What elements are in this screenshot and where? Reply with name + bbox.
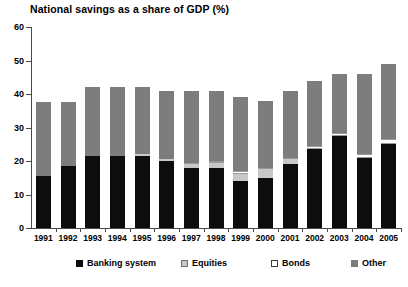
x-axis-tick-mark <box>130 228 131 232</box>
y-axis-tick-labels: 0102030405060 <box>0 0 24 287</box>
bar-segment-banking-system[interactable] <box>283 164 298 228</box>
y-axis-tick-mark <box>26 128 31 129</box>
legend-swatch-equities-icon <box>181 260 188 267</box>
legend-item-other[interactable]: Other <box>351 259 386 268</box>
y-axis-tick-mark <box>26 161 31 162</box>
x-axis-line <box>31 228 402 229</box>
plot-area <box>31 27 401 228</box>
legend-swatch-bonds-icon <box>271 260 278 267</box>
bar-segment-equities[interactable] <box>258 169 273 177</box>
x-axis-tick-mark <box>179 228 180 232</box>
x-axis-tick-mark <box>327 228 328 232</box>
bar-segment-banking-system[interactable] <box>135 156 150 228</box>
bar-segment-bonds[interactable] <box>332 133 347 136</box>
bar-segment-other[interactable] <box>332 74 347 133</box>
chart-legend: Banking systemEquitiesBondsOther <box>31 259 401 275</box>
bar-segment-other[interactable] <box>307 81 322 146</box>
bar-segment-equities[interactable] <box>209 163 224 168</box>
legend-label: Equities <box>192 259 227 268</box>
bar-segment-banking-system[interactable] <box>159 161 174 228</box>
bar-group[interactable] <box>36 27 51 228</box>
bar-segment-banking-system[interactable] <box>381 144 396 228</box>
y-axis-tick-label: 50 <box>2 57 24 66</box>
bar-segment-equities[interactable] <box>283 159 298 164</box>
bar-segment-banking-system[interactable] <box>332 136 347 228</box>
x-axis-tick-mark <box>278 228 279 232</box>
bar-group[interactable] <box>85 27 100 228</box>
bar-segment-other[interactable] <box>381 64 396 139</box>
bar-group[interactable] <box>258 27 273 228</box>
bar-segment-banking-system[interactable] <box>85 156 100 228</box>
y-axis-tick-label: 40 <box>2 90 24 99</box>
bar-segment-banking-system[interactable] <box>184 168 199 228</box>
legend-item-bonds[interactable]: Bonds <box>271 259 310 268</box>
bar-group[interactable] <box>61 27 76 228</box>
bar-segment-bonds[interactable] <box>357 154 372 157</box>
bar-segment-equities[interactable] <box>159 159 174 161</box>
bar-segment-other[interactable] <box>233 97 248 171</box>
bar-segment-banking-system[interactable] <box>209 168 224 228</box>
bar-group[interactable] <box>184 27 199 228</box>
bar-segment-other[interactable] <box>258 101 273 168</box>
y-axis-tick-label: 10 <box>2 191 24 200</box>
legend-item-banking[interactable]: Banking system <box>76 259 156 268</box>
y-axis-tick-mark <box>26 27 31 28</box>
y-axis-tick-label: 30 <box>2 124 24 133</box>
y-axis-tick-mark <box>26 94 31 95</box>
y-axis-tick-label: 60 <box>2 23 24 32</box>
bar-group[interactable] <box>283 27 298 228</box>
bar-segment-other[interactable] <box>283 91 298 158</box>
x-axis-tick-mark <box>204 228 205 232</box>
bar-segment-bonds[interactable] <box>307 146 322 149</box>
bar-group[interactable] <box>357 27 372 228</box>
legend-swatch-other-icon <box>351 260 358 267</box>
legend-label: Other <box>362 259 386 268</box>
legend-item-equities[interactable]: Equities <box>181 259 227 268</box>
bar-segment-banking-system[interactable] <box>307 149 322 228</box>
bar-segment-other[interactable] <box>357 74 372 154</box>
x-axis-tick-label: 2005 <box>372 233 406 243</box>
legend-label: Bonds <box>282 259 310 268</box>
legend-label: Banking system <box>87 259 156 268</box>
bar-group[interactable] <box>135 27 150 228</box>
bar-segment-equities[interactable] <box>135 154 150 156</box>
x-axis-tick-mark <box>80 228 81 232</box>
bar-group[interactable] <box>381 27 396 228</box>
y-axis-tick-label: 0 <box>2 224 24 233</box>
chart-title: National savings as a share of GDP (%) <box>30 3 229 15</box>
x-axis-tick-mark <box>105 228 106 232</box>
bar-segment-other[interactable] <box>135 87 150 154</box>
bar-segment-other[interactable] <box>159 91 174 160</box>
bar-segment-bonds[interactable] <box>381 139 396 144</box>
x-axis-tick-mark <box>228 228 229 232</box>
legend-swatch-banking-icon <box>76 260 83 267</box>
bar-group[interactable] <box>159 27 174 228</box>
bar-group[interactable] <box>233 27 248 228</box>
bar-segment-other[interactable] <box>85 87 100 156</box>
y-axis-tick-label: 20 <box>2 157 24 166</box>
bar-group[interactable] <box>332 27 347 228</box>
x-axis-tick-mark <box>352 228 353 232</box>
bar-segment-other[interactable] <box>209 91 224 161</box>
bar-segment-other[interactable] <box>36 102 51 176</box>
bar-segment-banking-system[interactable] <box>61 166 76 228</box>
bar-segment-other[interactable] <box>110 87 125 156</box>
bar-group[interactable] <box>110 27 125 228</box>
x-axis-tick-mark <box>56 228 57 232</box>
x-axis-tick-mark <box>376 228 377 232</box>
bar-segment-equities[interactable] <box>184 164 199 167</box>
bar-segment-other[interactable] <box>184 91 199 163</box>
bar-segment-banking-system[interactable] <box>110 156 125 228</box>
bar-segment-banking-system[interactable] <box>36 176 51 228</box>
bar-segment-banking-system[interactable] <box>258 178 273 228</box>
bar-segment-equities[interactable] <box>233 174 248 181</box>
bar-group[interactable] <box>209 27 224 228</box>
stacked-bar-chart: National savings as a share of GDP (%) 0… <box>0 0 408 287</box>
x-axis-tick-labels: 1991199219931994199519961997199819992000… <box>31 233 401 247</box>
bar-group[interactable] <box>307 27 322 228</box>
bar-segment-banking-system[interactable] <box>357 158 372 228</box>
bar-segment-banking-system[interactable] <box>233 181 248 228</box>
bar-segment-other[interactable] <box>61 102 76 166</box>
bar-segment-bonds[interactable] <box>233 171 248 174</box>
x-axis-tick-mark <box>401 228 402 232</box>
